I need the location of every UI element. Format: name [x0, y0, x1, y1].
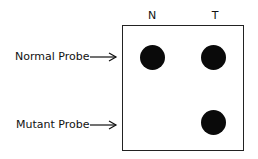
blot-membrane [122, 25, 244, 151]
row-label-normal-probe: Normal Probe [15, 50, 90, 63]
spot-mutant-t [201, 110, 226, 135]
column-label-t: T [205, 9, 225, 22]
spot-normal-t [201, 45, 226, 70]
arrow-right-icon [90, 52, 118, 62]
arrow-right-icon [90, 120, 118, 130]
column-label-n: N [142, 9, 162, 22]
row-label-mutant-probe: Mutant Probe [16, 118, 90, 131]
spot-normal-n [140, 45, 165, 70]
